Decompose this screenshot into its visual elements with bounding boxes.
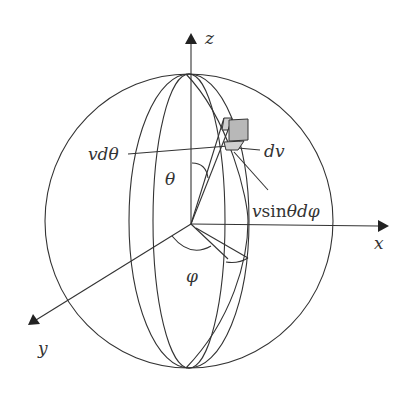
y-arrowhead	[28, 314, 40, 325]
vsin-rest: θdφ	[287, 201, 320, 221]
z-axis-label: z	[205, 30, 214, 47]
x-axis	[191, 224, 378, 226]
x-axis-label: x	[374, 235, 384, 252]
vsin-sin: sin	[262, 201, 287, 221]
radius-line-2	[191, 120, 232, 224]
vsinthetadphi-label: vsinθdφ	[252, 203, 320, 220]
dv-label: dv	[264, 143, 285, 160]
meridian-inner	[153, 74, 225, 368]
theta-label: θ	[165, 171, 175, 188]
diagram-graphics	[0, 0, 404, 394]
vsin-pointer	[234, 152, 268, 190]
spherical-coordinates-diagram: z x y θ φ vdθ dv vsinθdφ	[0, 0, 404, 394]
phi-label: φ	[186, 268, 198, 285]
y-axis	[36, 224, 191, 320]
vdtheta-label: vdθ	[88, 146, 119, 163]
x-arrowhead	[378, 220, 389, 232]
y-axis-label: y	[38, 340, 48, 357]
meridian-right	[186, 74, 248, 368]
projection-line-1	[191, 224, 228, 259]
vsin-v: v	[252, 201, 262, 221]
z-arrowhead	[185, 33, 197, 44]
radius-line	[191, 118, 224, 224]
projection-arc	[226, 258, 248, 263]
sphere-outline	[45, 74, 333, 368]
